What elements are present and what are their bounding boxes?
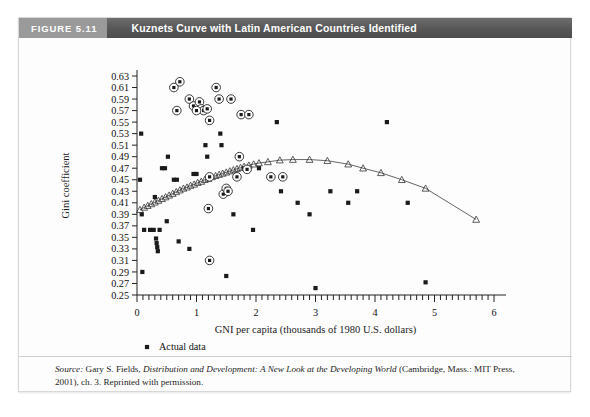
data-point-actual: [355, 189, 359, 193]
y-axis-tick-label: 0.31: [111, 255, 129, 266]
source-label: Source:: [55, 364, 83, 374]
y-axis-tick-label: 0.59: [111, 94, 129, 105]
y-axis-tick-label: 0.53: [111, 128, 129, 139]
x-axis-tick-label: 6: [491, 307, 496, 318]
data-point-latin-american: [278, 173, 287, 182]
y-axis-tick-label: 0.51: [111, 140, 129, 151]
source-work-title: Distribution and Development: A New Look…: [143, 364, 397, 374]
data-point-actual: [406, 201, 410, 205]
data-point-actual: [313, 286, 317, 290]
data-point-latin-american: [224, 187, 233, 196]
x-axis-tick-label: 3: [313, 307, 318, 318]
y-axis-tick-label: 0.33: [111, 243, 129, 254]
data-point-actual: [177, 239, 181, 243]
source-note: Source: Gary S. Fields, Distribution and…: [19, 356, 572, 388]
data-point-latin-american: [267, 173, 276, 182]
data-point-actual: [187, 247, 191, 251]
data-point-latin-american: [203, 105, 212, 114]
y-axis-tick-label: 0.39: [111, 209, 129, 220]
source-text: Source: Gary S. Fields, Distribution and…: [55, 363, 536, 388]
data-point-actual: [140, 270, 144, 274]
data-point-latin-american: [235, 152, 244, 161]
y-axis-tick-label: 0.25: [111, 290, 129, 301]
data-point-actual: [328, 189, 332, 193]
data-point-latin-american: [205, 116, 214, 125]
data-point-actual: [218, 132, 222, 136]
source-author: Gary S. Fields,: [83, 364, 143, 374]
data-point-latin-american: [243, 165, 252, 174]
data-point-latin-american: [245, 110, 254, 119]
data-point-actual: [203, 143, 207, 147]
kuznets-curve-scatter-chart: 0.250.270.290.310.330.350.370.390.410.43…: [19, 38, 572, 358]
data-point-actual: [205, 155, 209, 159]
legend-label: Actual data: [159, 341, 206, 352]
figure-container: FIGURE 5.11 Kuznets Curve with Latin Ame…: [18, 17, 571, 392]
data-point-actual: [152, 228, 156, 232]
data-point-actual: [166, 155, 170, 159]
x-axis-tick-label: 0: [134, 307, 139, 318]
figure-header-bar: FIGURE 5.11 Kuznets Curve with Latin Ame…: [19, 18, 572, 38]
data-point-actual: [231, 212, 235, 216]
y-axis-tick-label: 0.63: [111, 71, 129, 82]
x-axis-tick-label: 4: [372, 307, 377, 318]
data-point-actual: [219, 143, 223, 147]
data-point-actual: [175, 178, 179, 182]
y-axis-tick-label: 0.61: [111, 82, 129, 93]
y-axis-tick-label: 0.49: [111, 151, 129, 162]
y-axis-tick-label: 0.35: [111, 232, 129, 243]
y-axis-tick-label: 0.55: [111, 117, 129, 128]
data-point-latin-american: [215, 95, 224, 104]
y-axis: 0.250.270.290.310.330.350.370.390.410.43…: [111, 70, 137, 301]
data-point-actual: [251, 228, 255, 232]
data-point-latin-american: [173, 106, 182, 115]
data-point-actual: [158, 228, 162, 232]
data-point-actual: [155, 245, 159, 249]
data-point-actual: [307, 212, 311, 216]
legend-marker-filled-square: [145, 345, 149, 349]
y-axis-tick-label: 0.41: [111, 197, 129, 208]
y-axis-tick-label: 0.29: [111, 267, 129, 278]
data-point-actual: [275, 120, 279, 124]
data-point-actual: [155, 241, 159, 245]
data-point-actual: [154, 236, 158, 240]
data-point-latin-american: [227, 95, 236, 104]
x-axis-tick-label: 1: [194, 307, 199, 318]
y-axis-tick-label: 0.37: [111, 220, 129, 231]
figure-number-label: FIGURE 5.11: [19, 18, 107, 38]
data-point-actual: [346, 201, 350, 205]
data-point-actual: [163, 166, 167, 170]
data-point-actual: [279, 189, 283, 193]
data-point-actual: [156, 249, 160, 253]
data-point-actual: [224, 274, 228, 278]
data-point-actual: [139, 132, 143, 136]
data-point-actual: [423, 280, 427, 284]
data-point-latin-american: [192, 106, 201, 115]
data-point-latin-american: [170, 83, 179, 92]
y-axis-title: Gini coefficient: [60, 152, 71, 218]
x-axis-title: GNI per capita (thousands of 1980 U.S. d…: [215, 324, 417, 336]
figure-title: Kuznets Curve with Latin American Countr…: [131, 22, 416, 34]
data-point-latin-american: [204, 204, 213, 213]
x-axis: 0123456: [134, 295, 506, 318]
data-point-actual: [165, 219, 169, 223]
y-axis-tick-label: 0.27: [111, 278, 129, 289]
chart-plot-area: 0.250.270.290.310.330.350.370.390.410.43…: [19, 38, 572, 358]
data-point-latin-american: [233, 173, 242, 182]
y-axis-tick-label: 0.43: [111, 186, 129, 197]
x-axis-tick-label: 2: [253, 307, 258, 318]
y-axis-tick-label: 0.45: [111, 174, 129, 185]
data-point-actual: [385, 120, 389, 124]
x-axis-tick-label: 5: [432, 307, 437, 318]
data-point-actual: [142, 228, 146, 232]
data-point-actual: [194, 172, 198, 176]
data-point-latin-american: [212, 83, 221, 92]
y-axis-tick-label: 0.47: [111, 163, 129, 174]
y-axis-tick-label: 0.57: [111, 105, 129, 116]
data-point-latin-american: [205, 173, 214, 182]
actual-data-points: [138, 120, 428, 290]
data-point-actual: [257, 166, 261, 170]
data-point-actual: [138, 178, 142, 182]
data-point-latin-american: [205, 256, 214, 265]
data-point-actual: [296, 201, 300, 205]
